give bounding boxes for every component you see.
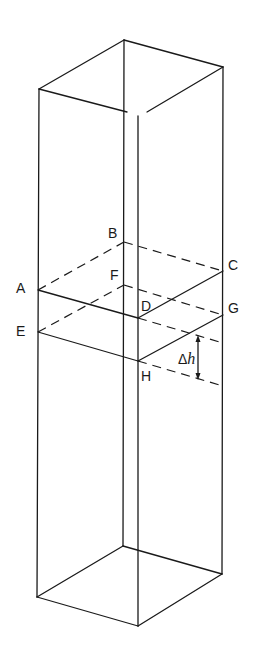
height-variable: h <box>187 350 195 367</box>
label-h: H <box>141 368 151 384</box>
label-g: G <box>228 300 239 316</box>
section-abcd <box>38 242 223 318</box>
label-f: F <box>110 267 119 283</box>
column-diagram: A B C D E F G H Δh <box>0 0 255 656</box>
delta-h-arrow <box>196 335 201 380</box>
top-face <box>39 40 223 112</box>
label-e: E <box>16 323 25 339</box>
bottom-face <box>37 546 222 626</box>
label-c: C <box>228 257 238 273</box>
vertical-edges <box>37 40 223 626</box>
label-d: D <box>141 298 151 314</box>
label-a: A <box>16 280 26 296</box>
delta-symbol: Δ <box>178 351 187 367</box>
delta-h-label: Δh <box>178 350 195 367</box>
label-b: B <box>108 225 117 241</box>
